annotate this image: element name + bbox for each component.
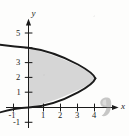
x-tick-label-1: 1 (41, 111, 45, 120)
y-axis-label: y (32, 9, 36, 18)
x-axis-arrowhead (112, 105, 119, 110)
figure-container: 5 3 2 1 -1 -1 1 2 3 4 y x (0, 0, 129, 136)
x-tick-label--1: -1 (9, 111, 16, 120)
y-tick-label-1: 1 (17, 88, 21, 97)
y-tick-label-5: 5 (16, 29, 20, 38)
x-tick-label-2: 2 (58, 111, 62, 120)
y-tick-label-3: 3 (16, 58, 20, 67)
y-axis-arrowhead (26, 19, 31, 26)
plot-area (0, 0, 129, 136)
x-tick-label-3: 3 (75, 111, 79, 120)
y-tick-label-2: 2 (16, 73, 20, 82)
x-axis-label: x (121, 102, 125, 111)
x-tick-label-4: 4 (92, 111, 96, 120)
